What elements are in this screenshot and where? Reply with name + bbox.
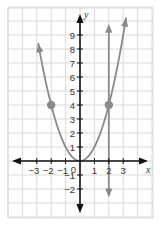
arrowhead-icon [12, 157, 21, 164]
arrowhead-icon [36, 43, 43, 52]
y-axis-label: y [83, 9, 89, 20]
data-point [105, 101, 113, 109]
y-tick-label: 2 [70, 128, 75, 139]
y-tick-label: 5 [70, 86, 75, 97]
y-tick-label: 6 [70, 72, 75, 83]
y-tick-label: 9 [70, 30, 75, 41]
y-tick-label: −2 [64, 184, 75, 195]
x-tick-label: −2 [43, 165, 54, 176]
y-tick-label: 1 [70, 142, 75, 153]
tick-labels: −3−2−1123−2−11234567890xy [28, 9, 151, 195]
y-tick-label: 8 [70, 44, 75, 55]
axes [12, 14, 148, 213]
arrowhead-icon [76, 14, 83, 23]
x-tick-label: 2 [106, 165, 111, 176]
y-tick-label: 7 [70, 58, 75, 69]
origin-label: 0 [71, 164, 76, 175]
coordinate-plane: −3−2−1123−2−11234567890xy [0, 0, 161, 227]
arrowhead-icon [76, 204, 83, 213]
arrowhead-icon [105, 24, 112, 33]
x-axis-label: x [145, 164, 151, 175]
y-tick-label: 4 [70, 100, 75, 111]
x-tick-label: 3 [121, 165, 126, 176]
y-tick-label: 3 [70, 114, 75, 125]
data-point [47, 101, 55, 109]
x-tick-label: −3 [28, 165, 39, 176]
arrowhead-icon [105, 188, 112, 197]
x-tick-label: 1 [92, 165, 97, 176]
arrowhead-icon [121, 18, 128, 27]
